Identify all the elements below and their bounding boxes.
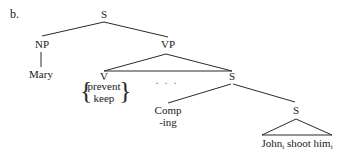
leaf-ing: -ing xyxy=(159,116,177,128)
branch-s-vp xyxy=(104,22,168,37)
verb-option-keep: keep xyxy=(94,92,115,104)
node-np: NP xyxy=(35,38,49,50)
leaf-mary: Mary xyxy=(29,68,53,80)
right-brace: } xyxy=(119,76,131,105)
vp-triangle xyxy=(104,54,232,71)
branch-s-comp xyxy=(168,84,231,103)
node-s-complement: S xyxy=(229,70,235,82)
word-shoot: shoot xyxy=(284,137,313,149)
syntax-tree-diagram: b. S NP Mary VP V { } prevent keep . . .… xyxy=(0,0,345,155)
node-comp: Comp xyxy=(155,104,182,116)
branch-s-s xyxy=(233,84,295,102)
embedded-clause-text: Johni shoot himi xyxy=(261,137,332,151)
embedded-s-triangle xyxy=(262,119,332,135)
word-him: him xyxy=(314,137,332,149)
word-john: John xyxy=(261,137,282,149)
node-s-embedded: S xyxy=(293,104,299,116)
node-s-root: S xyxy=(101,8,107,20)
node-vp: VP xyxy=(161,38,175,50)
ellipsis: . . . xyxy=(156,75,179,86)
verb-option-prevent: prevent xyxy=(88,80,121,92)
example-label: b. xyxy=(10,7,19,21)
branch-s-np xyxy=(42,22,104,36)
subscript-i-him: i xyxy=(331,143,333,151)
